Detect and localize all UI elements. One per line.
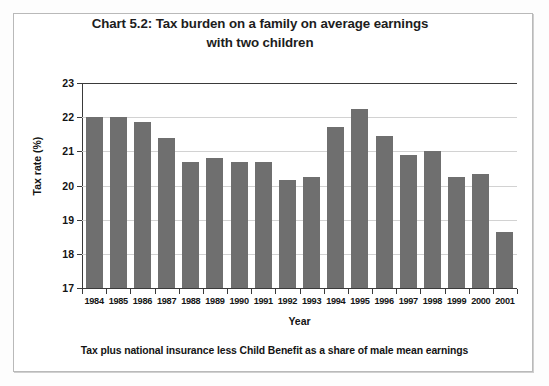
bar-1985 [110,117,127,288]
x-tick-1992 [275,289,276,294]
chart-title: Chart 5.2: Tax burden on a family on ave… [40,14,480,52]
x-tick-1993 [300,289,301,294]
bar-1990 [231,162,248,288]
y-tick-23 [77,83,82,84]
bar-1984 [86,117,103,288]
x-tick-1996 [372,289,373,294]
x-axis-title: Year [82,315,517,327]
gridline-22 [82,117,517,118]
x-tick-1997 [396,289,397,294]
x-tick-1998 [420,289,421,294]
x-tick-1984 [82,289,83,294]
x-tick-1987 [155,289,156,294]
plot-area [82,83,517,288]
bar-1995 [351,109,368,288]
bar-1994 [327,127,344,288]
bar-2001 [496,232,513,288]
bar-1989 [206,158,223,288]
x-tick-1991 [251,289,252,294]
bar-1993 [303,177,320,288]
bar-2000 [472,174,489,288]
bar-1991 [255,162,272,288]
x-tick-1986 [130,289,131,294]
bar-1992 [279,180,296,288]
y-axis-label-19: 19 [52,214,74,226]
x-tick-1990 [227,289,228,294]
chart-title-text-line-1: Chart 5.2: Tax burden on a family on ave… [92,16,429,31]
x-tick-1995 [348,289,349,294]
chart-footnote: Tax plus national insurance less Child B… [20,345,529,356]
bar-1986 [134,122,151,288]
bar-1998 [424,151,441,288]
bar-1988 [182,162,199,288]
y-tick-22 [77,117,82,118]
x-tick-1994 [324,289,325,294]
x-tick-2000 [469,289,470,294]
x-tick-end [517,289,518,294]
y-axis-label-21: 21 [52,145,74,157]
y-axis-label-18: 18 [52,248,74,260]
x-tick-2001 [493,289,494,294]
y-axis-label-20: 20 [52,180,74,192]
chart-figure: Chart 5.2: Tax burden on a family on ave… [0,0,549,386]
x-tick-1985 [106,289,107,294]
y-tick-21 [77,151,82,152]
y-axis-label-23: 23 [52,77,74,89]
x-tick-1989 [203,289,204,294]
y-tick-19 [77,220,82,221]
bar-1997 [400,155,417,288]
gridline-23 [82,83,517,84]
y-tick-18 [77,254,82,255]
x-axis-label-2001: 2001 [488,296,522,306]
x-tick-1988 [179,289,180,294]
chart-title-text-line-2: with two children [40,33,480,52]
y-tick-20 [77,186,82,187]
bar-1999 [448,177,465,288]
bar-1987 [158,138,175,288]
x-tick-1999 [445,289,446,294]
y-axis-label-17: 17 [52,282,74,294]
y-axis-label-22: 22 [52,111,74,123]
y-axis-title: Tax rate (%) [31,121,43,211]
bar-1996 [376,136,393,288]
